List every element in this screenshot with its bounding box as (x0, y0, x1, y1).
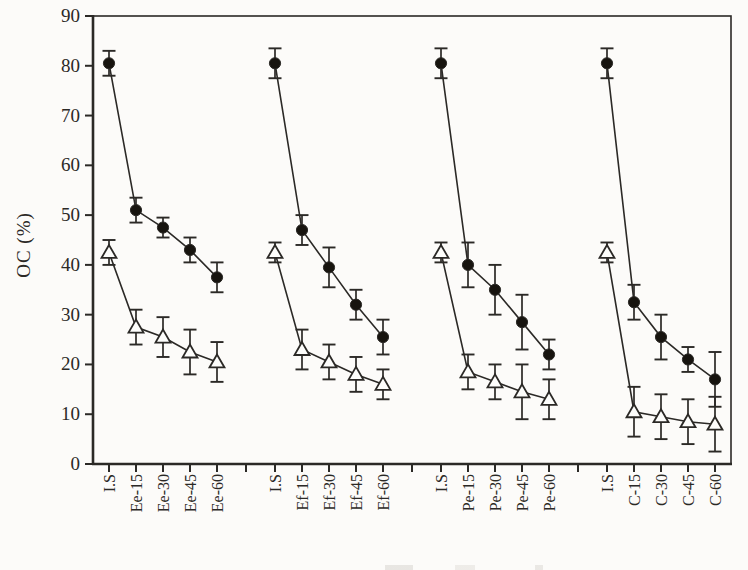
data-point-triangle (183, 345, 198, 358)
y-axis-title: OC (%) (13, 212, 35, 278)
x-tick-label: Pe-30 (487, 474, 504, 511)
x-tick-label: Ef-60 (375, 474, 392, 510)
x-tick-label: C-15 (626, 474, 643, 506)
y-tick-label: 60 (61, 154, 80, 175)
data-point-triangle (210, 354, 225, 367)
y-tick-label: 0 (71, 453, 81, 474)
plot-border (93, 16, 731, 464)
cropped-caption-remnant (385, 565, 555, 570)
y-tick-label: 30 (61, 304, 80, 325)
data-point-triangle (434, 245, 449, 258)
data-point-triangle (102, 245, 117, 258)
scanned-chart-figure: 0102030405060708090I.SEe-15Ee-30Ee-45Ee-… (0, 0, 748, 570)
data-point-triangle (156, 330, 171, 343)
data-point-circle (296, 224, 307, 235)
data-point-circle (435, 58, 446, 69)
x-tick-label: Ee-45 (182, 474, 199, 512)
data-point-triangle (322, 354, 337, 367)
x-tick-label: I.S (433, 474, 450, 492)
series-line-circle (275, 63, 383, 337)
x-tick-label: I.S (599, 474, 616, 492)
data-point-circle (157, 222, 168, 233)
x-tick-label: I.S (267, 474, 284, 492)
data-point-triangle (627, 404, 642, 417)
y-tick-label: 90 (61, 5, 80, 26)
y-tick-label: 10 (61, 403, 80, 424)
data-point-triangle (515, 384, 530, 397)
x-tick-label: Ee-60 (209, 474, 226, 512)
x-tick-label: Ee-15 (128, 474, 145, 512)
data-point-circle (682, 354, 693, 365)
data-point-circle (350, 299, 361, 310)
data-point-circle (462, 259, 473, 270)
x-tick-label: Ef-30 (321, 474, 338, 510)
data-point-circle (628, 297, 639, 308)
data-point-circle (601, 58, 612, 69)
data-point-circle (103, 58, 114, 69)
x-tick-label: I.S (101, 474, 118, 492)
data-point-circle (489, 284, 500, 295)
oc-percentage-chart: 0102030405060708090I.SEe-15Ee-30Ee-45Ee-… (0, 0, 748, 570)
x-tick-label: Ef-45 (348, 474, 365, 510)
data-point-triangle (376, 377, 391, 390)
data-point-triangle (488, 374, 503, 387)
x-tick-label: Ef-15 (294, 474, 311, 510)
data-point-triangle (600, 245, 615, 258)
data-point-circle (323, 262, 334, 273)
y-tick-label: 80 (61, 55, 80, 76)
x-tick-label: Pe-15 (460, 474, 477, 511)
data-point-circle (516, 317, 527, 328)
y-tick-label: 20 (61, 353, 80, 374)
data-point-circle (130, 205, 141, 216)
series-line-circle (109, 63, 217, 277)
y-tick-label: 40 (61, 254, 80, 275)
data-point-circle (377, 331, 388, 342)
x-tick-label: C-30 (653, 474, 670, 506)
y-tick-label: 50 (61, 204, 80, 225)
x-tick-label: C-60 (707, 474, 724, 506)
data-point-circle (543, 349, 554, 360)
x-tick-label: Pe-45 (514, 474, 531, 511)
data-point-triangle (295, 342, 310, 355)
data-point-triangle (268, 245, 283, 258)
data-point-circle (709, 374, 720, 385)
data-point-circle (184, 244, 195, 255)
y-tick-label: 70 (61, 105, 80, 126)
data-point-circle (269, 58, 280, 69)
x-tick-label: Pe-60 (541, 474, 558, 511)
data-point-triangle (461, 364, 476, 377)
x-tick-label: Ee-30 (155, 474, 172, 512)
data-point-triangle (129, 320, 144, 333)
x-tick-label: C-45 (680, 474, 697, 506)
data-point-circle (211, 272, 222, 283)
data-point-circle (655, 331, 666, 342)
data-point-triangle (349, 367, 364, 380)
